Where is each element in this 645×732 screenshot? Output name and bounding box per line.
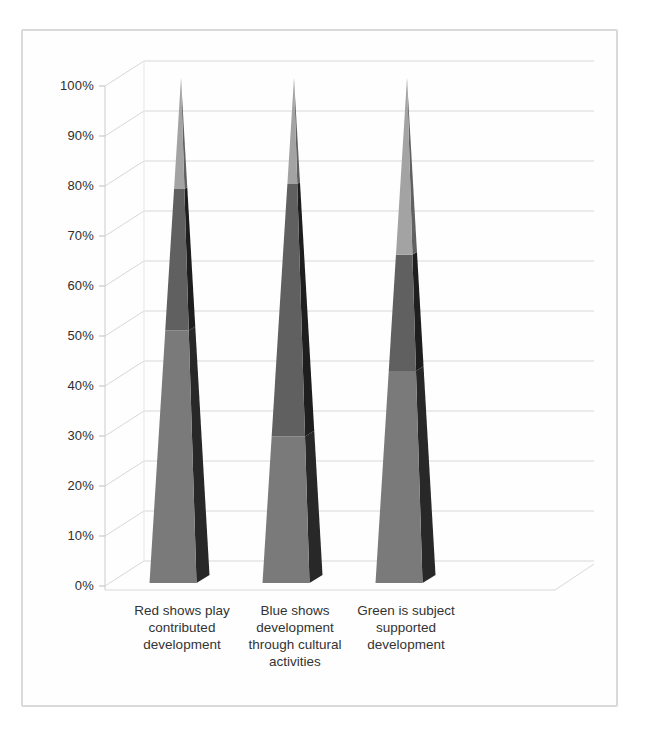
y-axis-tick-label: 30% [34, 428, 94, 443]
scanned-page: 100%90%80%70%60%50%40%30%20%10%0% Red sh… [0, 0, 645, 732]
y-axis-tick-label: 50% [34, 328, 94, 343]
y-axis-tick-label: 60% [34, 278, 94, 293]
y-axis: 100%90%80%70%60%50%40%30%20%10%0% [23, 31, 100, 705]
cone3-segment1-front [376, 371, 423, 583]
y-axis-tick-label: 0% [34, 578, 94, 593]
y-axis-tick-label: 80% [34, 178, 94, 193]
y-axis-tick-label: 40% [34, 378, 94, 393]
y-axis-tick-label: 100% [34, 78, 94, 93]
cone3-segment2-front [389, 255, 416, 371]
chart-frame: 100%90%80%70%60%50%40%30%20%10%0% Red sh… [21, 29, 618, 707]
category-label-3: Green is subject supported development [336, 602, 476, 653]
gridline [105, 61, 594, 86]
y-axis-tick-label: 20% [34, 478, 94, 493]
y-axis-tick-label: 70% [34, 228, 94, 243]
cone2-segment1-front [263, 437, 310, 583]
cone1-segment1-front [150, 331, 197, 584]
y-axis-tick-label: 90% [34, 128, 94, 143]
y-axis-tick-label: 10% [34, 528, 94, 543]
